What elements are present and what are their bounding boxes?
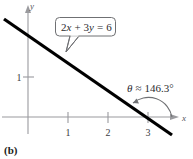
- equation-rhs: 6: [106, 21, 112, 33]
- x-axis-label: x: [181, 113, 186, 123]
- equation-plus: +: [74, 21, 80, 33]
- y-tick-label-1: 1: [17, 72, 22, 83]
- panel-label: (b): [4, 144, 18, 157]
- angle-label: θ≈146.3°: [127, 82, 174, 94]
- degree-symbol: °: [169, 82, 173, 94]
- approx-symbol: ≈: [135, 82, 141, 94]
- angle-arc: [133, 97, 172, 117]
- y-axis: [25, 5, 31, 134]
- theta-symbol: θ: [127, 82, 133, 94]
- equation-equals: =: [97, 21, 103, 33]
- callout-tail: [66, 36, 79, 52]
- x-tick-label-1: 1: [66, 127, 71, 138]
- x-tick-label-3: 3: [146, 127, 151, 138]
- equation-term2-var: y: [88, 21, 94, 33]
- figure-panel-b: y x 1 2 3 1 θ≈146.3°: [0, 0, 193, 159]
- equation-term1-var: x: [66, 21, 72, 33]
- y-axis-label: y: [29, 1, 34, 11]
- x-tick-label-2: 2: [106, 127, 111, 138]
- angle-value: 146.3: [144, 82, 169, 94]
